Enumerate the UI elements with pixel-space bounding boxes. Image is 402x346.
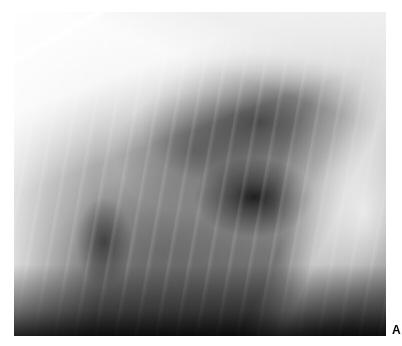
panel-label: A bbox=[392, 324, 401, 336]
linear-artifact bbox=[14, 12, 386, 336]
figure: A bbox=[0, 0, 402, 346]
thoracic-radiograph-image bbox=[14, 12, 386, 336]
